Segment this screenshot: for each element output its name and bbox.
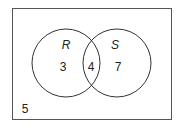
intersection-count: 4 [88,60,95,74]
set-r-label: R [62,38,71,52]
universe-count: 5 [22,102,29,116]
s-only-count: 7 [115,60,122,74]
r-only-count: 3 [60,60,67,74]
set-s-label: S [111,38,119,52]
venn-diagram: R S 3 4 7 5 [0,0,179,130]
